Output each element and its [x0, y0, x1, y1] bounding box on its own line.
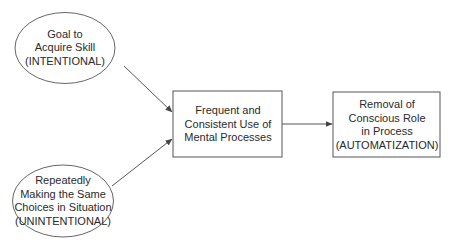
frequent-text: Frequent and Consistent Use of Mental Pr…	[184, 104, 271, 145]
goal-label: Goal to Acquire Skill (INTENTIONAL)	[17, 13, 113, 83]
arrow-goal-to-frequent	[124, 66, 172, 112]
arrow-repeat-to-frequent	[112, 139, 172, 186]
goal-text: Goal to Acquire Skill (INTENTIONAL)	[25, 28, 105, 69]
repeat-text: Repeatedly Making the Same Choices in Si…	[14, 174, 111, 228]
removal-text: Removal of Conscious Role in Process (AU…	[336, 98, 439, 152]
repeat-label: Repeatedly Making the Same Choices in Si…	[12, 165, 114, 237]
frequent-label: Frequent and Consistent Use of Mental Pr…	[173, 91, 283, 158]
removal-label: Removal of Conscious Role in Process (AU…	[333, 92, 441, 158]
